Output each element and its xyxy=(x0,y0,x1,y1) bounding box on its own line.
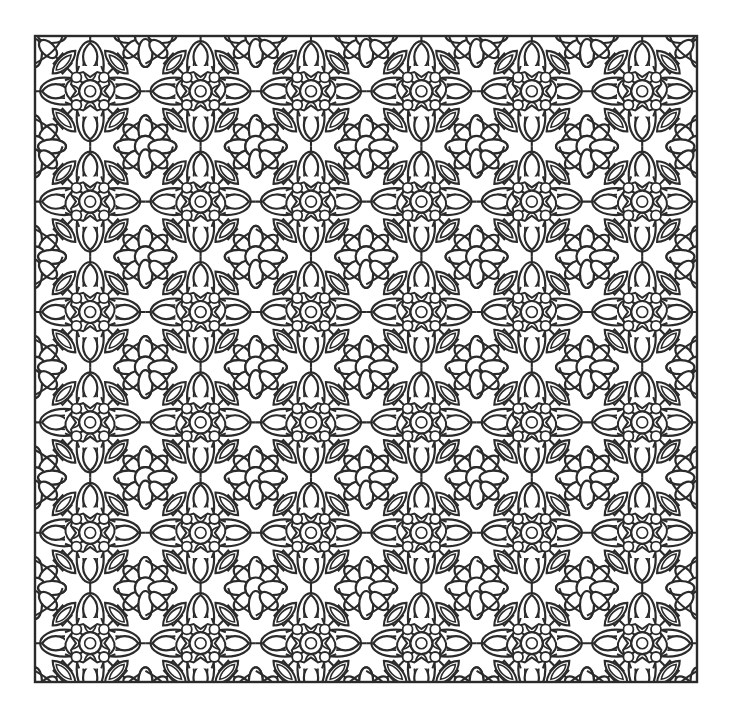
pattern-field xyxy=(25,26,708,709)
coloring-page-canvas xyxy=(0,0,730,715)
kaleidoscope-artwork xyxy=(0,0,730,715)
